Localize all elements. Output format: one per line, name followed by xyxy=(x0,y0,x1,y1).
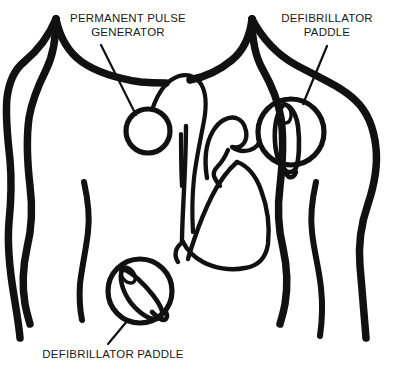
paddle-handle-lower-left xyxy=(121,270,162,319)
torso-left-inner xyxy=(80,182,89,320)
defibrillator-paddle-lower-left[interactable] xyxy=(108,259,172,323)
leader-line-paddle-lower-left xyxy=(108,320,128,344)
shoulder-right xyxy=(190,19,252,80)
arm-right-outer xyxy=(252,19,377,338)
anatomical-diagram-figure: PERMANENT PULSE GENERATOR DEFIBRILLATOR … xyxy=(0,0,410,369)
pacemaker-lead-tip xyxy=(181,134,182,186)
defibrillator-paddle-upper-right[interactable] xyxy=(258,99,324,177)
pacemaker-lead xyxy=(152,75,206,232)
torso-right-inner xyxy=(311,182,322,336)
permanent-pulse-generator[interactable] xyxy=(126,109,170,153)
diagram-canvas: PERMANENT PULSE GENERATOR DEFIBRILLATOR … xyxy=(0,0,410,369)
label-pulse-generator-line2: GENERATOR xyxy=(91,26,165,38)
label-paddle-lower-left-line1: DEFIBRILLATOR PADDLE xyxy=(42,348,184,360)
label-pulse-generator-line1: PERMANENT PULSE xyxy=(70,12,186,24)
label-paddle-upper-right-line2: PADDLE xyxy=(304,26,350,38)
body-outline-left xyxy=(23,19,56,324)
label-paddle-upper-right-line1: DEFIBRILLATOR xyxy=(281,12,373,24)
leader-line-paddle-upper-right xyxy=(303,46,327,104)
heart-apex-notch xyxy=(176,242,183,262)
body-outline-right xyxy=(252,19,287,324)
